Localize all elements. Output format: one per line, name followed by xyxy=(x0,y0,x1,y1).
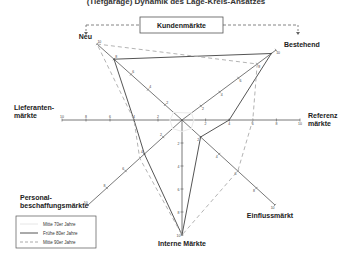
data-point xyxy=(139,157,141,159)
tick-label: 8 xyxy=(115,55,117,59)
tick-label: 2 xyxy=(157,115,159,119)
legend-label: Frühe 80er Jahre xyxy=(43,231,78,236)
tick-label: 4 xyxy=(149,85,151,89)
data-point xyxy=(256,63,258,65)
data-point xyxy=(169,119,171,121)
tick-label: 4 xyxy=(178,165,180,169)
axis-line-neu xyxy=(97,44,182,120)
tick-label: 4 xyxy=(228,122,230,126)
axis-label-personal: Personal-beschaffungsmärkte xyxy=(20,194,89,210)
tick-label: 2 xyxy=(178,142,180,146)
data-point xyxy=(172,128,174,130)
data-point xyxy=(237,170,239,172)
data-point xyxy=(252,119,254,121)
tick-label: 10 xyxy=(298,122,302,126)
tick-label: 8 xyxy=(253,189,255,193)
top-bracket: Kundenmärkte xyxy=(84,17,300,35)
tick-label: 2 xyxy=(202,107,204,111)
tick-label: 10 xyxy=(271,206,275,210)
tick-label: 10 xyxy=(276,51,280,55)
axis-label-intern: Interne Märkte xyxy=(158,240,206,247)
data-point xyxy=(193,119,195,121)
tick-label: 10 xyxy=(60,115,64,119)
data-point xyxy=(181,234,183,236)
tick-label: 2 xyxy=(166,101,168,105)
tick-label: 4 xyxy=(141,150,143,154)
tick-label: 8 xyxy=(258,65,260,69)
tick-label: 2 xyxy=(197,138,199,142)
arrow-down-icon xyxy=(296,32,300,35)
tick-label: 6 xyxy=(178,188,180,192)
axis-labels: NeuBestehendReferenzmärkteEinflussmärktI… xyxy=(14,33,338,247)
axis-label-lieferanten: Lieferanten-märkte xyxy=(14,104,55,119)
top-box-label: Kundenmärkte xyxy=(157,22,206,29)
tick-label: 8 xyxy=(275,122,277,126)
data-point xyxy=(173,112,175,114)
tick-label: 6 xyxy=(240,79,242,83)
data-point xyxy=(144,153,146,155)
data-point xyxy=(200,136,202,138)
axis-label-einfluss: Einflussmärkt xyxy=(247,212,294,219)
data-point xyxy=(271,53,273,55)
tick-label: 2 xyxy=(160,133,162,137)
radar-chart: (Tiefgarage) Dynamik des Lage-Kreis-Ansa… xyxy=(0,0,353,265)
series-2 xyxy=(97,44,257,235)
tick-label: 8 xyxy=(178,211,180,215)
tick-label: 6 xyxy=(109,115,111,119)
tick-label: 10 xyxy=(177,234,181,238)
tick-label: 6 xyxy=(122,167,124,171)
tick-label: 4 xyxy=(221,93,223,97)
tick-label: 6 xyxy=(132,70,134,74)
axes: 2468102468102468102468102468102468102468… xyxy=(60,40,302,238)
data-point xyxy=(113,58,115,60)
chart-title: (Tiefgarage) Dynamik des Lage-Kreis-Ansa… xyxy=(87,0,266,6)
data-point xyxy=(228,119,230,121)
data-point xyxy=(191,112,193,114)
data-point xyxy=(191,128,193,130)
legend: Mitte 70er JahreFrühe 80er JahreMitte 90… xyxy=(16,216,96,248)
tick-label: 2 xyxy=(205,122,207,126)
legend-label: Mitte 90er Jahre xyxy=(43,240,76,245)
data-point xyxy=(96,43,98,45)
data-point xyxy=(181,131,183,133)
axis-line-personal xyxy=(88,120,182,205)
data-point xyxy=(133,119,135,121)
axis-label-neu: Neu xyxy=(79,33,92,40)
axis-label-bestehend: Bestehend xyxy=(284,41,320,48)
axis-label-referenz: Referenzmärkte xyxy=(308,112,338,127)
tick-label: 8 xyxy=(103,184,105,188)
legend-label: Mitte 70er Jahre xyxy=(43,222,76,227)
tick-label: 10 xyxy=(97,40,101,44)
tick-label: 8 xyxy=(85,115,87,119)
tick-label: 4 xyxy=(216,155,218,159)
